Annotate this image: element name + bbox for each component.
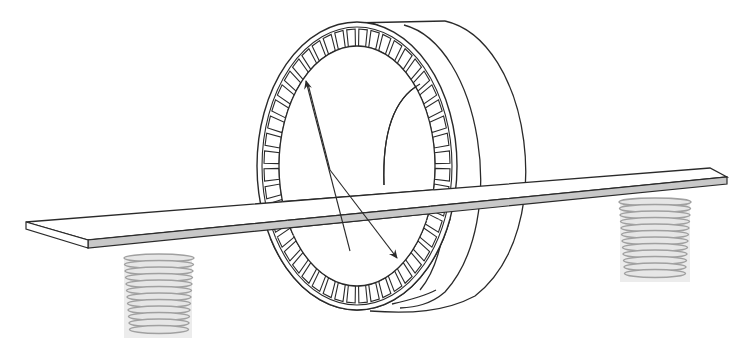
diagram-canvas: Slotted stator ring on support bar bbox=[0, 0, 754, 355]
stator-slot bbox=[359, 285, 368, 303]
stator-slot bbox=[359, 29, 368, 47]
stator-slot bbox=[264, 168, 279, 181]
right-threaded-post bbox=[619, 198, 691, 282]
stator-slot bbox=[347, 29, 356, 47]
left-threaded-post bbox=[124, 254, 194, 338]
thread-ring bbox=[625, 270, 686, 278]
stator-slot bbox=[347, 285, 356, 303]
thread-ring bbox=[130, 326, 189, 334]
stator-slot bbox=[435, 168, 450, 181]
stator-slot bbox=[264, 151, 279, 164]
stator-slot bbox=[435, 151, 450, 164]
stator-drawing bbox=[0, 0, 754, 355]
